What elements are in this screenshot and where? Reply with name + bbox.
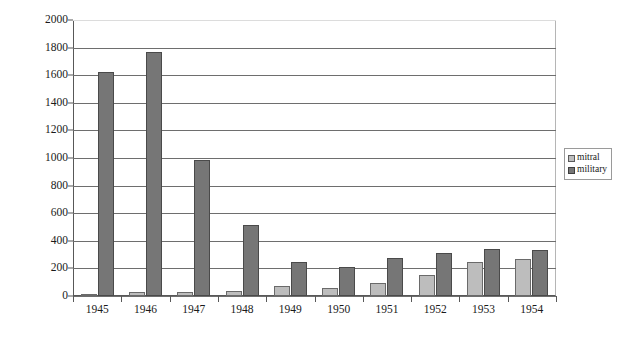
y-tick-label-0: 0 (22, 290, 68, 302)
y-tick-mark-1600 (68, 75, 73, 76)
gridline-1800 (73, 48, 556, 49)
y-tick-mark-2000 (68, 20, 73, 21)
y-tick-label-800: 800 (22, 180, 68, 192)
y-tick-label-2000: 2000 (22, 14, 68, 26)
y-tick-label-1800: 1800 (22, 42, 68, 54)
x-tick-mark-7 (411, 296, 412, 302)
y-tick-label-600: 600 (22, 207, 68, 219)
y-tick-label-200: 200 (22, 263, 68, 275)
gridline-1200 (73, 130, 556, 131)
x-tick-mark-1 (121, 296, 122, 302)
x-tick-mark-10 (556, 296, 557, 302)
legend-entry-military[interactable]: military (568, 164, 607, 176)
legend-swatch-mitral-icon (568, 155, 575, 162)
gridline-2000 (73, 20, 556, 21)
gridline-800 (73, 186, 556, 187)
chart-legend: mitral military (564, 148, 612, 180)
legend-entry-mitral[interactable]: mitral (568, 152, 607, 164)
gridline-1000 (73, 158, 556, 159)
gridline-200 (73, 268, 556, 269)
x-tick-mark-6 (363, 296, 364, 302)
x-tick-mark-9 (508, 296, 509, 302)
gridline-400 (73, 241, 556, 242)
y-tick-mark-600 (68, 213, 73, 214)
y-tick-mark-1000 (68, 158, 73, 159)
gridline-600 (73, 213, 556, 214)
x-tick-mark-4 (266, 296, 267, 302)
x-tick-mark-3 (218, 296, 219, 302)
x-tick-mark-5 (315, 296, 316, 302)
y-tick-label-1600: 1600 (22, 69, 68, 81)
y-tick-mark-1800 (68, 47, 73, 48)
x-tick-mark-2 (170, 296, 171, 302)
legend-label-military: military (577, 165, 607, 175)
y-tick-mark-400 (68, 240, 73, 241)
gridline-1600 (73, 75, 556, 76)
gridline-1400 (73, 103, 556, 104)
legend-swatch-military-icon (568, 167, 575, 174)
x-tick-mark-0 (73, 296, 74, 302)
y-tick-label-1000: 1000 (22, 152, 68, 164)
y-tick-mark-800 (68, 185, 73, 186)
legend-label-mitral: mitral (577, 153, 600, 163)
y-tick-mark-1200 (68, 130, 73, 131)
y-tick-label-1400: 1400 (22, 97, 68, 109)
x-tick-mark-8 (459, 296, 460, 302)
y-tick-label-400: 400 (22, 235, 68, 247)
x-tick-label-1954: 1954 (502, 303, 562, 316)
bar-chart-figure: 0200400600800100012001400160018002000 19… (0, 0, 637, 337)
y-tick-label-1200: 1200 (22, 125, 68, 137)
y-tick-mark-200 (68, 268, 73, 269)
y-tick-mark-1400 (68, 102, 73, 103)
